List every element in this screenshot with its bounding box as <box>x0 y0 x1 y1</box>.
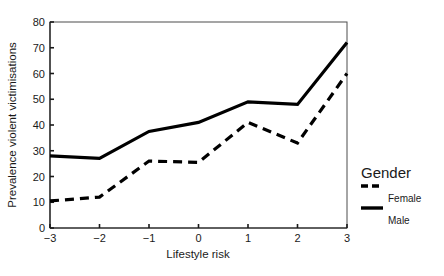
y-tick-label: 10 <box>33 196 45 208</box>
legend: Gender Female Male <box>361 164 422 226</box>
x-tick-label: −2 <box>93 232 106 244</box>
x-tick-label: 1 <box>245 232 251 244</box>
legend-label-male: Male <box>388 215 410 226</box>
chart-figure: 01020304050607080 −3−2−10123 Lifestyle r… <box>0 0 444 276</box>
x-axis-ticks: −3−2−10123 <box>44 224 350 244</box>
x-tick-label: −1 <box>143 232 156 244</box>
x-tick-label: 3 <box>344 232 350 244</box>
y-tick-label: 50 <box>33 93 45 105</box>
x-tick-label: 0 <box>195 232 201 244</box>
legend-title: Gender <box>361 164 411 181</box>
chart-svg: 01020304050607080 −3−2−10123 Lifestyle r… <box>0 0 444 276</box>
legend-label-female: Female <box>388 193 422 204</box>
x-tick-label: −3 <box>44 232 57 244</box>
series-line-female <box>50 74 347 201</box>
y-tick-label: 80 <box>33 16 45 28</box>
y-tick-label: 70 <box>33 42 45 54</box>
series-line-male <box>50 43 347 159</box>
y-tick-label: 30 <box>33 145 45 157</box>
plot-frame <box>50 22 347 228</box>
y-tick-label: 40 <box>33 119 45 131</box>
x-tick-label: 2 <box>294 232 300 244</box>
y-tick-label: 60 <box>33 68 45 80</box>
y-axis-title: Prevalence violent victimisations <box>6 42 18 208</box>
x-axis-title: Lifestyle risk <box>166 248 230 260</box>
y-tick-label: 20 <box>33 171 45 183</box>
